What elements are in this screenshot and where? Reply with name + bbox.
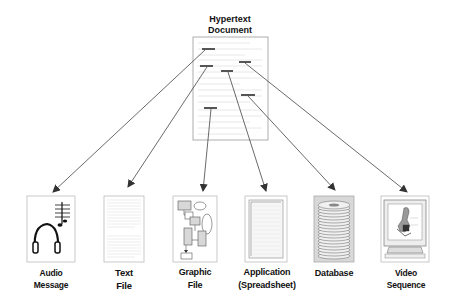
label-line1: Graphic: [168, 266, 222, 279]
label-line1: Application: [236, 266, 298, 279]
spreadsheet-icon[interactable]: [245, 196, 287, 262]
hypertext-diagram: [0, 0, 467, 301]
flowchart-icon[interactable]: [173, 196, 217, 262]
label-line2: Message: [26, 279, 76, 291]
hypertext-document-page: [193, 37, 268, 140]
label-line1: Audio: [26, 267, 76, 279]
label-line2: File: [168, 279, 222, 292]
label-line2: File: [99, 279, 149, 292]
headphones-music-icon[interactable]: [27, 196, 75, 262]
label-database: Database: [306, 267, 362, 279]
label-line1: Text: [99, 266, 149, 279]
arrow-to-audio: [53, 50, 205, 192]
label-text-file: Text File: [99, 266, 149, 292]
label-line2: Sequence: [378, 279, 434, 291]
monitor-video-icon[interactable]: [381, 196, 429, 262]
label-application: Application (Spreadsheet): [236, 266, 298, 292]
label-graphic-file: Graphic File: [168, 266, 222, 292]
label-line1: Video: [378, 267, 434, 279]
disk-stack-icon[interactable]: [314, 196, 354, 262]
text-page-icon[interactable]: [104, 196, 144, 262]
label-audio-message: Audio Message: [26, 267, 76, 291]
label-line2: (Spreadsheet): [236, 279, 298, 292]
label-line1: Database: [306, 267, 362, 279]
arrow-to-video: [245, 63, 407, 192]
label-video-sequence: Video Sequence: [378, 267, 434, 291]
